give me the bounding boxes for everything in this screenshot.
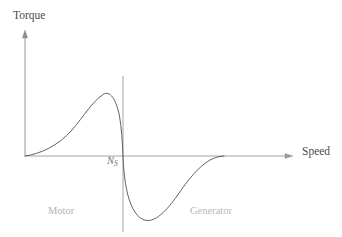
synchronous-speed-subscript: S — [114, 159, 118, 168]
synchronous-speed-symbol: N — [107, 155, 114, 166]
right-arrow-icon — [285, 153, 293, 158]
region-label-generator: Generator — [190, 206, 232, 217]
synchronous-speed-label: NS — [107, 156, 118, 168]
torque-speed-curve — [25, 93, 224, 220]
x-axis-group — [25, 153, 293, 158]
up-arrow-icon — [22, 30, 27, 38]
torque-speed-figure: Torque Speed NS Motor Generator — [0, 0, 342, 237]
region-label-motor: Motor — [48, 206, 74, 217]
torque-speed-plot — [0, 0, 342, 237]
y-axis-label: Torque — [13, 10, 45, 22]
y-axis-group — [22, 30, 27, 156]
x-axis-label: Speed — [302, 146, 330, 158]
